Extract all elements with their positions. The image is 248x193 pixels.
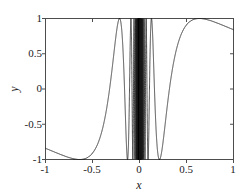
figure-sin-one-over-x: 1 0.5 0 -0.5 -1 -1 -0.5 0 0.5 1 y x (0, 0, 248, 193)
ytick-label-0: 0 (37, 83, 43, 94)
data-series-group (46, 19, 234, 160)
y-axis-title: y (8, 83, 20, 95)
xtick-label-0: 0 (129, 164, 149, 175)
xtick-label-0_5: 0.5 (173, 164, 199, 175)
xtick-label-neg0_5: -0.5 (79, 164, 105, 175)
xtick-label-1: 1 (223, 164, 243, 175)
ytick-label-neg0_5: -0.5 (25, 119, 42, 130)
x-axis-title: x (129, 179, 149, 191)
xtick-label-neg1: -1 (35, 164, 55, 175)
ytick-label-1: 1 (37, 13, 43, 24)
data-series-line-0 (46, 19, 234, 160)
ytick-label-0_5: 0.5 (28, 48, 42, 59)
